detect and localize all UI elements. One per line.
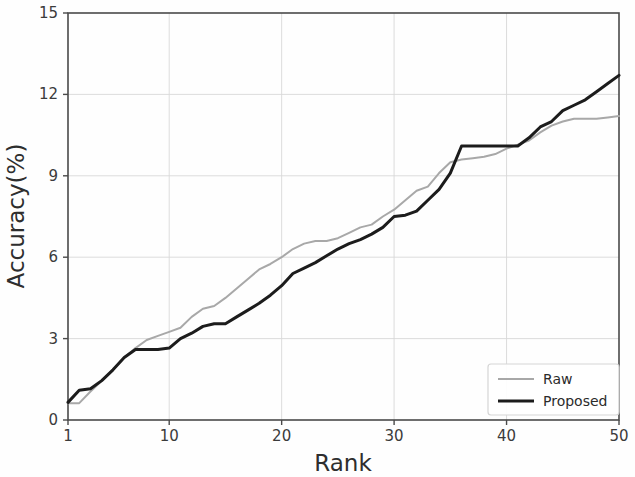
y-tick-label: 0 (48, 411, 58, 429)
axis-ticks (63, 13, 619, 425)
grid-lines (68, 13, 619, 420)
data-series (68, 75, 619, 403)
y-axis-title: Accuracy(%) (3, 144, 29, 289)
y-tick-label: 9 (48, 167, 58, 185)
x-tick-label: 50 (609, 427, 628, 445)
y-tick-label: 6 (48, 248, 58, 266)
chart-figure: 0369121511020304050 Rank Accuracy(%) Raw… (0, 0, 635, 477)
x-tick-label: 30 (385, 427, 404, 445)
series-line-proposed (68, 75, 619, 402)
plot-frame (68, 13, 619, 420)
x-tick-label: 40 (497, 427, 516, 445)
y-tick-label: 3 (48, 330, 58, 348)
legend[interactable]: Raw Proposed (488, 364, 619, 415)
axes-border (68, 13, 619, 420)
y-tick-label: 12 (39, 85, 58, 103)
x-tick-label: 1 (63, 427, 73, 445)
x-tick-label: 20 (272, 427, 291, 445)
legend-label-raw: Raw (543, 371, 572, 387)
y-tick-label: 15 (39, 4, 58, 22)
series-line-raw (68, 116, 619, 403)
line-chart-svg: 0369121511020304050 Rank Accuracy(%) Raw… (0, 0, 635, 477)
legend-label-proposed: Proposed (543, 393, 607, 409)
x-tick-label: 10 (160, 427, 179, 445)
x-axis-title: Rank (314, 450, 372, 476)
